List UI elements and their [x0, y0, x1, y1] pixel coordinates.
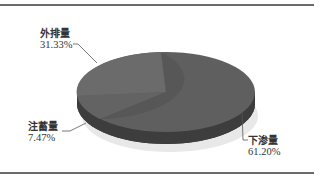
label-value: 7.47% [28, 132, 58, 143]
leader-line-waipai [73, 44, 97, 63]
label-xiashen: 下渗量 61.20% [248, 135, 280, 157]
label-name: 下渗量 [248, 135, 280, 146]
label-name: 外排量 [40, 28, 72, 39]
slice-waipai [77, 52, 166, 96]
leader-line-zhuxu [62, 123, 86, 131]
label-value: 61.20% [248, 146, 280, 157]
label-name: 注蓄量 [28, 121, 58, 132]
label-value: 31.33% [40, 39, 72, 50]
label-waipai: 外排量 31.33% [40, 28, 72, 50]
label-zhuxu: 注蓄量 7.47% [28, 121, 58, 143]
